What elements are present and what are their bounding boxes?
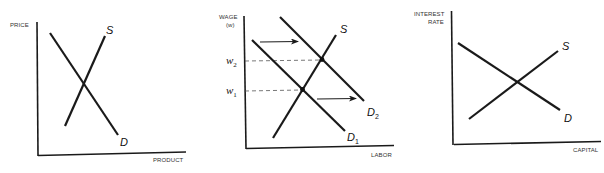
supply-label: S <box>562 40 570 52</box>
equilibrium-point-2 <box>320 57 325 62</box>
demand-label: D <box>564 112 572 124</box>
supply-demand-diagrams: PRICE PRODUCT S D WAGE (w) LABOR w2 w1 S… <box>0 0 604 173</box>
capital-axis-label: CAPITAL <box>573 147 599 153</box>
wage-axis-label: WAGE <box>219 14 238 20</box>
demand-curve-d1 <box>252 40 345 131</box>
product-market-panel: PRICE PRODUCT S D <box>10 22 186 163</box>
w1-guide-line <box>245 90 302 91</box>
demand-curve <box>50 33 118 135</box>
labor-market-panel: WAGE (w) LABOR w2 w1 S D2 D1 <box>219 14 394 158</box>
shift-arrow-lower <box>317 99 356 100</box>
d1-label: D1 <box>347 131 359 145</box>
price-axis-label: PRICE <box>10 22 29 28</box>
supply-curve <box>65 36 105 126</box>
labor-axis-label: LABOR <box>371 152 392 158</box>
rate-axis-label: RATE <box>428 19 444 25</box>
y-axis <box>37 22 38 156</box>
wage-symbol-label: (w) <box>226 22 235 28</box>
capital-market-panel: INTEREST RATE CAPITAL S D <box>414 11 601 153</box>
x-axis <box>38 152 186 156</box>
supply-curve <box>469 51 558 119</box>
demand-curve <box>458 43 560 110</box>
w2-guide-line <box>245 60 322 61</box>
interest-axis-label: INTEREST <box>414 11 445 17</box>
product-axis-label: PRODUCT <box>153 157 184 163</box>
y-axis <box>244 16 246 149</box>
shift-arrow-upper <box>260 42 298 43</box>
x-axis <box>246 146 394 149</box>
supply-label: S <box>340 23 348 35</box>
supply-curve <box>273 35 336 138</box>
y-axis <box>452 11 454 145</box>
equilibrium-point-1 <box>300 87 305 92</box>
x-axis <box>454 142 601 145</box>
w2-label: w2 <box>226 54 237 69</box>
d2-label: D2 <box>367 106 379 120</box>
demand-label: D <box>120 136 128 148</box>
w1-label: w1 <box>226 84 237 99</box>
supply-label: S <box>106 24 114 36</box>
